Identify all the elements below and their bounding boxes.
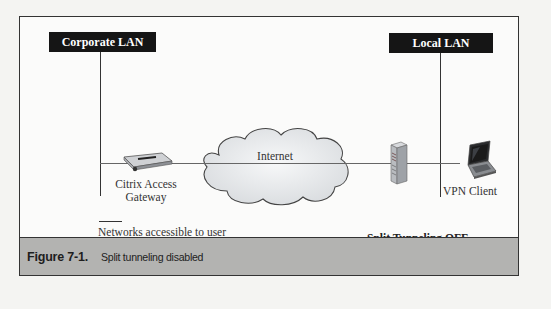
internet-cloud-icon [197, 125, 353, 207]
internet-label: Internet [250, 150, 300, 163]
corporate-lan-line [100, 52, 101, 196]
corporate-lan-box: Corporate LAN [49, 32, 156, 52]
tower-server-icon [387, 141, 409, 185]
figure-number: Figure 7-1. [27, 250, 88, 264]
laptop-icon [460, 141, 498, 179]
local-lan-label: Local LAN [413, 36, 470, 51]
legend-line-swatch [99, 221, 122, 222]
gateway-label: Citrix Access Gateway [106, 178, 186, 204]
local-lan-line [440, 53, 441, 197]
figure-caption-bar: Figure 7-1. Split tunneling disabled [20, 237, 518, 275]
gateway-appliance-icon [118, 149, 174, 173]
vpn-client-label: VPN Client [435, 185, 505, 198]
local-lan-box: Local LAN [389, 33, 493, 53]
figure-frame: Corporate LAN Local LAN Internet Citrix … [19, 16, 519, 276]
figure-title: Split tunneling disabled [101, 251, 203, 263]
corporate-lan-label: Corporate LAN [62, 35, 144, 50]
